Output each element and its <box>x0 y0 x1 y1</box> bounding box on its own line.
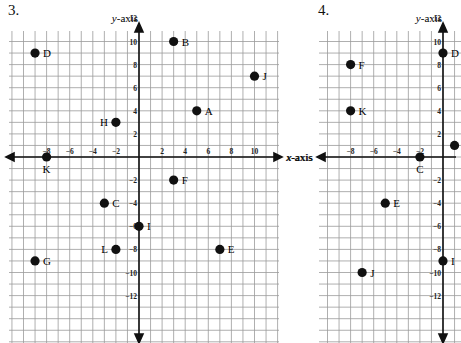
point-label-I: I <box>451 255 455 267</box>
point-label-H: H <box>100 116 108 128</box>
point-label-F: F <box>359 59 365 71</box>
x-axis-label: x-axis <box>286 151 313 163</box>
svg-text:6: 6 <box>206 147 210 156</box>
point-label-F: F <box>182 174 188 186</box>
arrow-right-icon <box>274 153 282 161</box>
point-label-L: L <box>101 243 108 255</box>
coordinate-plots: y-axisx-axis−8−6−4−224681012108642−2−4−6… <box>0 0 461 343</box>
svg-text:6: 6 <box>133 84 137 93</box>
point-label-D: D <box>451 47 459 59</box>
point-I <box>438 256 447 265</box>
arrow-left-icon <box>317 153 325 161</box>
svg-text:−10: −10 <box>429 269 441 278</box>
point-label-I: I <box>147 220 151 232</box>
point-H <box>111 118 120 127</box>
point-label-E: E <box>393 197 400 209</box>
svg-text:−4: −4 <box>433 199 441 208</box>
svg-text:−6: −6 <box>433 222 441 231</box>
point-I <box>134 222 143 231</box>
point-J <box>250 72 259 81</box>
point-K <box>346 106 355 115</box>
arrow-left-icon <box>6 153 14 161</box>
point-F <box>169 176 178 185</box>
svg-text:−8: −8 <box>347 147 355 156</box>
svg-text:−2: −2 <box>129 176 137 185</box>
points: CDEFIJK <box>346 47 459 278</box>
svg-text:4: 4 <box>437 107 441 116</box>
point-label-A: A <box>205 105 213 117</box>
svg-text:8: 8 <box>437 61 441 70</box>
point-D <box>30 48 39 57</box>
svg-text:2: 2 <box>437 130 441 139</box>
svg-text:−4: −4 <box>89 147 97 156</box>
svg-text:−6: −6 <box>370 147 378 156</box>
svg-text:10: 10 <box>251 147 259 156</box>
svg-text:−8: −8 <box>433 245 441 254</box>
point-label-K: K <box>43 163 51 175</box>
grid <box>9 31 279 343</box>
arrow-up-icon <box>439 23 447 32</box>
point-L <box>111 245 120 254</box>
point-label-C: C <box>112 197 119 209</box>
svg-text:8: 8 <box>230 147 234 156</box>
svg-text:−4: −4 <box>129 199 137 208</box>
point-label-B: B <box>182 36 189 48</box>
point-label-D: D <box>43 47 51 59</box>
svg-text:10: 10 <box>130 38 138 47</box>
point-D <box>438 48 447 57</box>
point-B <box>169 37 178 46</box>
svg-text:8: 8 <box>133 61 137 70</box>
svg-text:10: 10 <box>434 38 442 47</box>
svg-text:−2: −2 <box>112 147 120 156</box>
svg-text:−2: −2 <box>433 176 441 185</box>
svg-text:−8: −8 <box>129 245 137 254</box>
point-label-J: J <box>263 70 268 82</box>
point-label-G: G <box>43 255 51 267</box>
point-label-E: E <box>228 243 235 255</box>
plot-3: y-axisx-axis−8−6−4−224681012108642−2−4−6… <box>6 12 312 343</box>
svg-text:−4: −4 <box>393 147 401 156</box>
svg-text:2: 2 <box>160 147 164 156</box>
svg-text:12: 12 <box>434 14 442 23</box>
point-J <box>358 268 367 277</box>
svg-text:−6: −6 <box>66 147 74 156</box>
svg-text:4: 4 <box>133 107 137 116</box>
svg-text:−10: −10 <box>125 269 137 278</box>
point-F <box>346 60 355 69</box>
point-K <box>42 152 51 161</box>
arrow-up-icon <box>135 23 143 32</box>
svg-text:12: 12 <box>130 14 138 23</box>
svg-text:2: 2 <box>133 130 137 139</box>
point-E <box>215 245 224 254</box>
svg-text:4: 4 <box>183 147 187 156</box>
point-E <box>381 199 390 208</box>
axes <box>6 23 282 343</box>
svg-text:−12: −12 <box>125 292 137 301</box>
point-A <box>192 106 201 115</box>
svg-text:−12: −12 <box>429 292 441 301</box>
point-label-J: J <box>370 267 375 279</box>
point-label-C: C <box>416 163 423 175</box>
plot-4: y-axisx-axis−8−6−4−212108642−2−4−6−8−10−… <box>286 12 461 343</box>
point-A <box>450 141 459 150</box>
point-C <box>415 152 424 161</box>
point-label-K: K <box>359 105 367 117</box>
point-C <box>100 199 109 208</box>
point-G <box>30 256 39 265</box>
svg-text:6: 6 <box>437 84 441 93</box>
